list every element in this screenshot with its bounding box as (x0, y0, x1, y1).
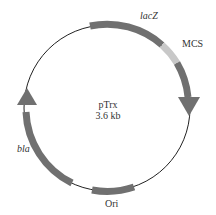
mcs-segment (162, 45, 177, 63)
plasmid-map: lacZ MCS bla Ori pTrx 3.6 kb (0, 0, 216, 215)
lacZ-label: lacZ (140, 10, 158, 21)
lacZ-arrowhead-icon (178, 97, 200, 116)
plasmid-name: pTrx (98, 99, 117, 110)
lacZ-segment (90, 24, 162, 45)
plasmid-size: 3.6 kb (96, 110, 121, 121)
bla-segment (26, 112, 72, 183)
ori-label: Ori (105, 198, 119, 209)
bla-arrowhead-icon (17, 88, 37, 105)
lacZ-arrow-shaft (177, 63, 188, 97)
ori-segment (92, 187, 134, 191)
mcs-label: MCS (182, 38, 203, 49)
bla-label: bla (17, 143, 30, 154)
